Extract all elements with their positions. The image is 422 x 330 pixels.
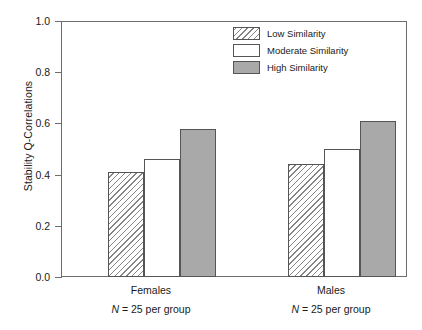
x-axis-group-label-females: Females [91, 284, 211, 296]
n-value: = 25 per group [299, 303, 371, 315]
n-symbol: N [111, 303, 119, 315]
x-axis-group-label-males: Males [271, 284, 391, 296]
legend: Low Similarity Moderate Similarity High … [233, 27, 348, 74]
legend-label: Moderate Similarity [267, 46, 348, 56]
y-tick-label: 0.8 [18, 66, 50, 78]
legend-item-low-similarity: Low Similarity [233, 27, 348, 40]
n-symbol: N [291, 303, 299, 315]
bar-males-high [360, 121, 396, 277]
bar-chart-figure: Stability Q-Correlations 1.0 0.8 0.6 0.4… [0, 0, 422, 330]
bar-females-high [180, 129, 216, 277]
legend-swatch-moderate-similarity-icon [233, 44, 260, 57]
y-tick-label: 0.2 [18, 220, 50, 232]
x-axis-group-n-males: N = 25 per group [261, 303, 401, 315]
n-value: = 25 per group [119, 303, 191, 315]
legend-item-moderate-similarity: Moderate Similarity [233, 44, 348, 57]
legend-swatch-low-similarity-icon [233, 27, 260, 40]
legend-swatch-high-similarity-icon [233, 61, 260, 74]
y-tick-label: 0.4 [18, 169, 50, 181]
x-axis-group-n-females: N = 25 per group [81, 303, 221, 315]
bar-females-moderate [144, 159, 180, 277]
bar-males-moderate [324, 149, 360, 277]
bar-females-low [108, 172, 144, 277]
bar-males-low [288, 164, 324, 277]
y-tick-label: 0.0 [18, 271, 50, 283]
legend-label: High Similarity [267, 63, 328, 73]
y-tick-label: 1.0 [18, 15, 50, 27]
y-tick-label: 0.6 [18, 117, 50, 129]
y-tick-mark [55, 277, 62, 278]
legend-item-high-similarity: High Similarity [233, 61, 348, 74]
legend-label: Low Similarity [267, 29, 326, 39]
